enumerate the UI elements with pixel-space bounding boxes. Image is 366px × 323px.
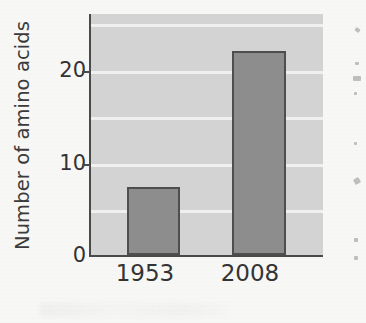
- edge-artifact: [353, 76, 361, 81]
- edge-artifact: [354, 238, 358, 242]
- bar-1953[interactable]: [127, 187, 180, 255]
- x-tick-label-1953: 1953: [104, 262, 186, 285]
- x-axis-line: [89, 255, 323, 257]
- edge-artifact: [354, 142, 357, 145]
- gridline-10: [91, 164, 323, 167]
- figure-canvas: Number of amino acids 20 10 0 1953 2008: [0, 0, 366, 323]
- gridline-20: [91, 71, 323, 74]
- edge-artifact: [354, 27, 360, 33]
- plot-area: [91, 14, 323, 255]
- edge-artifact: [355, 62, 359, 65]
- gridline-5: [91, 210, 323, 213]
- edge-artifact: [353, 177, 361, 185]
- page-bottom-smudge: [40, 303, 230, 317]
- y-tick-label-10: 10: [44, 153, 86, 174]
- gridline-25: [91, 24, 323, 27]
- y-axis-title: Number of amino acids: [12, 20, 35, 249]
- x-tick-label-2008: 2008: [209, 262, 291, 285]
- scan-edge-artifacts: [336, 0, 366, 323]
- edge-artifact: [354, 256, 358, 260]
- y-tick-label-0: 0: [44, 245, 86, 266]
- y-tick-label-20: 20: [44, 60, 86, 81]
- gridline-15: [91, 117, 323, 120]
- edge-artifact: [354, 92, 357, 95]
- y-axis-tick-labels: 20 10 0: [40, 0, 86, 323]
- bar-2008[interactable]: [232, 51, 286, 255]
